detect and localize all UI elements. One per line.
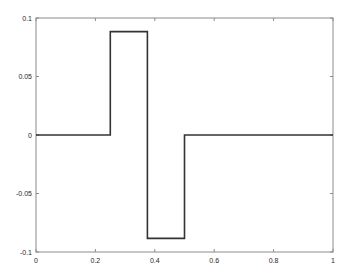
- axis-ticks: 00.20.40.60.81-0.1-0.0500.050.1: [16, 15, 335, 265]
- series-line: [36, 32, 333, 239]
- y-tick-label: 0: [28, 132, 32, 139]
- data-series: [36, 32, 333, 239]
- x-tick-label: 0.4: [150, 257, 160, 264]
- y-tick-label: -0.05: [16, 190, 32, 197]
- x-tick-label: 0.8: [269, 257, 279, 264]
- y-tick-label: 0.1: [22, 15, 32, 22]
- y-tick-label: 0.05: [18, 73, 32, 80]
- y-tick-label: -0.1: [20, 249, 32, 256]
- chart-plot: 00.20.40.60.81-0.1-0.0500.050.1: [0, 0, 348, 279]
- x-tick-label: 0.2: [91, 257, 101, 264]
- x-tick-label: 1: [331, 257, 335, 264]
- x-tick-label: 0.6: [209, 257, 219, 264]
- x-tick-label: 0: [34, 257, 38, 264]
